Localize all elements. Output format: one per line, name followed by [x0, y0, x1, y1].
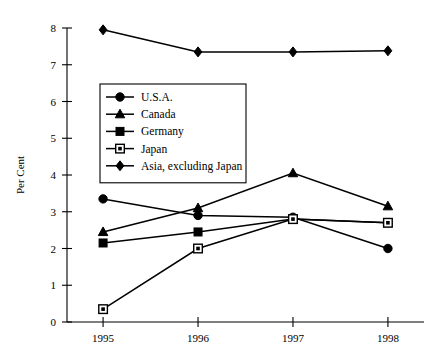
legend-item-label: Asia, excluding Japan	[141, 160, 242, 173]
series-line	[103, 199, 388, 249]
data-point-marker	[99, 25, 107, 35]
y-tick-label: 4	[51, 169, 57, 181]
x-axis: 1995199619971998	[67, 317, 424, 344]
data-point-marker	[384, 244, 392, 252]
series-line	[103, 219, 388, 309]
x-tick-label: 1998	[377, 332, 400, 344]
y-axis: 012345678 Per Cent	[14, 22, 72, 328]
legend-item-label: U.S.A.	[141, 91, 173, 103]
y-axis-tick-labels: 012345678	[51, 22, 57, 328]
series-germany	[99, 215, 392, 247]
data-point-marker	[116, 144, 125, 153]
data-point-marker	[194, 211, 202, 219]
y-tick-label: 8	[51, 22, 57, 34]
data-point-marker	[116, 127, 124, 135]
x-tick-label: 1995	[92, 332, 115, 344]
y-tick-label: 7	[51, 59, 57, 71]
data-point-marker	[99, 239, 107, 247]
data-point-marker	[194, 47, 202, 57]
data-point-marker	[384, 46, 392, 56]
data-point-marker	[289, 215, 298, 224]
x-tick-label: 1996	[187, 332, 210, 344]
data-point-marker	[384, 218, 393, 227]
y-tick-label: 6	[51, 96, 57, 108]
y-tick-label: 1	[51, 279, 57, 291]
chart-legend: U.S.A.CanadaGermanyJapanAsia, excluding …	[100, 84, 246, 183]
x-tick-label: 1997	[282, 332, 305, 344]
data-point-marker	[289, 47, 297, 57]
y-tick-label: 0	[51, 316, 57, 328]
series-u-s-a	[99, 195, 392, 253]
y-axis-title: Per Cent	[14, 156, 26, 194]
data-point-marker	[116, 93, 124, 101]
line-chart: 012345678 Per Cent 1995199619971998 U.S.…	[0, 0, 444, 359]
legend-item-label: Japan	[141, 143, 167, 156]
data-point-marker	[288, 168, 298, 177]
data-point-marker	[99, 195, 107, 203]
y-tick-label: 2	[51, 243, 57, 255]
series-line	[103, 30, 388, 52]
data-point-marker	[194, 244, 203, 253]
data-point-marker	[99, 305, 108, 314]
series-asia-excluding-japan	[99, 25, 392, 57]
series-line	[103, 219, 388, 243]
y-tick-label: 5	[51, 132, 57, 144]
data-point-marker	[194, 228, 202, 236]
series-japan	[99, 215, 392, 314]
y-tick-label: 3	[51, 206, 57, 218]
chart-canvas: 012345678 Per Cent 1995199619971998 U.S.…	[0, 0, 444, 359]
x-axis-tick-labels: 1995199619971998	[92, 332, 399, 344]
legend-item-label: Canada	[141, 108, 175, 120]
legend-item-label: Germany	[141, 125, 184, 138]
